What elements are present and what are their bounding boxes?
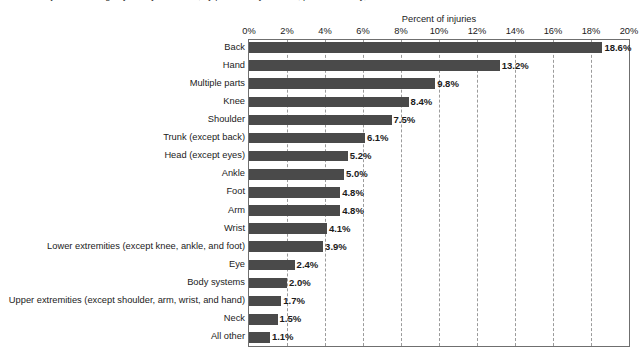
bar-value-label: 3.9% [325, 241, 347, 252]
bar-row: Eye2.4% [0, 256, 642, 273]
bar-row: Body systems2.0% [0, 275, 642, 292]
bar-row: Hand13.2% [0, 57, 642, 74]
bar-value-label: 13.2% [502, 60, 529, 71]
x-tick-label-20: 20% [609, 26, 642, 36]
bar-value-label: 8.4% [411, 96, 433, 107]
bar-row: Ankle5.0% [0, 166, 642, 183]
bar-row: Wrist4.1% [0, 220, 642, 237]
category-label: Shoulder [208, 114, 245, 124]
bar[interactable] [249, 42, 602, 53]
x-tick-label-12: 12% [457, 26, 497, 36]
bar[interactable] [249, 296, 281, 307]
bar[interactable] [249, 223, 327, 234]
bar-value-label: 18.6% [604, 42, 631, 53]
category-label: Ankle [222, 168, 245, 178]
bar[interactable] [249, 60, 500, 71]
category-label: Foot [226, 186, 245, 196]
bar[interactable] [249, 278, 287, 289]
x-tick-label-2: 2% [267, 26, 307, 36]
bar-row: Neck1.5% [0, 311, 642, 328]
bar-row: Trunk (except back)6.1% [0, 130, 642, 147]
bar-value-label: 2.4% [297, 259, 319, 270]
bar-value-label: 4.1% [329, 223, 351, 234]
category-label: Wrist [224, 223, 245, 233]
bar-row: All other1.1% [0, 329, 642, 346]
bar-row: Foot4.8% [0, 184, 642, 201]
category-label: Trunk (except back) [163, 132, 245, 142]
x-axis-title: Percent of injuries [248, 14, 630, 24]
bar-value-label: 2.0% [289, 277, 311, 288]
bar-value-label: 7.5% [394, 114, 416, 125]
x-tick-label-14: 14% [495, 26, 535, 36]
category-label: Back [224, 42, 245, 52]
report-title: Percent of injuries involving days away … [0, 0, 642, 2]
x-tick-label-16: 16% [533, 26, 573, 36]
x-axis-tick-labels: 0%2%4%6%8%10%12%14%16%18%20% [0, 26, 642, 38]
bar-row: Back18.6% [0, 39, 642, 56]
bar-value-label: 5.0% [346, 168, 368, 179]
category-label: Hand [223, 60, 245, 70]
category-label: Upper extremities (except shoulder, arm,… [9, 295, 245, 305]
bar[interactable] [249, 332, 270, 343]
x-tick-label-4: 4% [305, 26, 345, 36]
category-label: Multiple parts [190, 78, 245, 88]
bar[interactable] [249, 314, 278, 325]
x-tick-label-6: 6% [343, 26, 383, 36]
bar-row: Knee8.4% [0, 93, 642, 110]
bar-value-label: 6.1% [367, 132, 389, 143]
bar-value-label: 1.5% [280, 313, 302, 324]
bar-value-label: 4.8% [342, 205, 364, 216]
bar[interactable] [249, 115, 392, 126]
x-tick-label-18: 18% [571, 26, 611, 36]
category-label: All other [211, 331, 245, 341]
bar[interactable] [249, 78, 435, 89]
bar[interactable] [249, 187, 340, 198]
category-label: Head (except eyes) [164, 150, 245, 160]
bar-row: Upper extremities (except shoulder, arm,… [0, 293, 642, 310]
bar[interactable] [249, 169, 344, 180]
bar[interactable] [249, 133, 365, 144]
bar[interactable] [249, 97, 409, 108]
bar[interactable] [249, 241, 323, 252]
bar-row: Arm4.8% [0, 202, 642, 219]
category-label: Neck [224, 313, 245, 323]
category-label: Lower extremities (except knee, ankle, a… [47, 241, 245, 251]
bar[interactable] [249, 205, 340, 216]
x-tick-label-0: 0% [229, 26, 269, 36]
bar-value-label: 4.8% [342, 187, 364, 198]
bar-value-label: 1.1% [272, 331, 294, 342]
category-label: Knee [223, 96, 245, 106]
x-tick-label-8: 8% [381, 26, 421, 36]
bar-value-label: 5.2% [350, 150, 372, 161]
bar-value-label: 1.7% [283, 295, 305, 306]
x-tick-label-10: 10% [419, 26, 459, 36]
category-label: Arm [228, 205, 245, 215]
category-label: Body systems [187, 277, 245, 287]
bar[interactable] [249, 260, 295, 271]
bar-row: Multiple parts9.8% [0, 75, 642, 92]
bar-row: Shoulder7.5% [0, 111, 642, 128]
bar-rows: Back18.6%Hand13.2%Multiple parts9.8%Knee… [0, 39, 642, 347]
bar-row: Lower extremities (except knee, ankle, a… [0, 238, 642, 255]
bar-value-label: 9.8% [437, 78, 459, 89]
category-label: Eye [229, 259, 245, 269]
bar-row: Head (except eyes)5.2% [0, 148, 642, 165]
bar[interactable] [249, 151, 348, 162]
